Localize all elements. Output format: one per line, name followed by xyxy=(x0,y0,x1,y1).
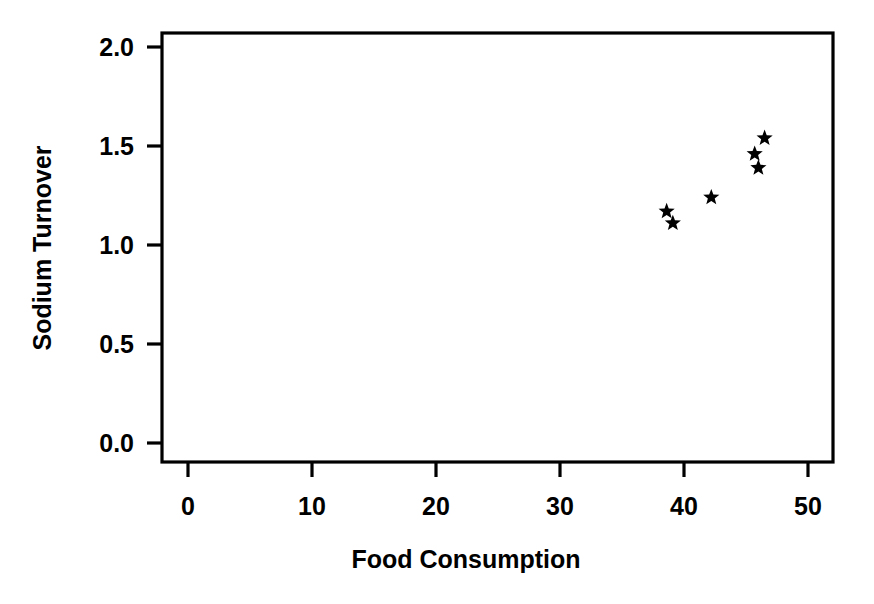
plot-frame xyxy=(162,33,833,462)
chart-canvas: 0 10 20 30 40 50 0.0 0.5 1.0 1.5 2.0 Foo… xyxy=(0,0,874,604)
x-axis-tick-labels: 0 10 20 30 40 50 xyxy=(181,492,822,520)
x-tick-label-40: 40 xyxy=(670,492,698,520)
data-point-marker xyxy=(750,159,766,174)
data-point-series xyxy=(659,130,773,231)
x-axis-ticks xyxy=(188,462,808,477)
data-point-marker xyxy=(665,215,681,230)
x-tick-label-50: 50 xyxy=(794,492,822,520)
x-axis-title: Food Consumption xyxy=(351,545,580,573)
y-tick-label-1-0: 1.0 xyxy=(99,231,134,259)
y-tick-label-2-0: 2.0 xyxy=(99,33,134,61)
y-axis-ticks xyxy=(147,47,162,443)
x-tick-label-10: 10 xyxy=(298,492,326,520)
data-point-marker xyxy=(757,130,773,145)
y-tick-label-1-5: 1.5 xyxy=(99,132,134,160)
data-point-marker xyxy=(747,145,763,160)
y-tick-label-0-0: 0.0 xyxy=(99,429,134,457)
x-tick-label-20: 20 xyxy=(422,492,450,520)
data-point-marker xyxy=(659,203,675,218)
x-tick-label-30: 30 xyxy=(546,492,574,520)
scatter-plot-figure: 0 10 20 30 40 50 0.0 0.5 1.0 1.5 2.0 Foo… xyxy=(0,0,874,604)
y-axis-title: Sodium Turnover xyxy=(28,145,56,350)
y-tick-label-0-5: 0.5 xyxy=(99,330,134,358)
y-axis-tick-labels: 0.0 0.5 1.0 1.5 2.0 xyxy=(99,33,134,457)
x-tick-label-0: 0 xyxy=(181,492,195,520)
data-point-marker xyxy=(703,189,719,204)
